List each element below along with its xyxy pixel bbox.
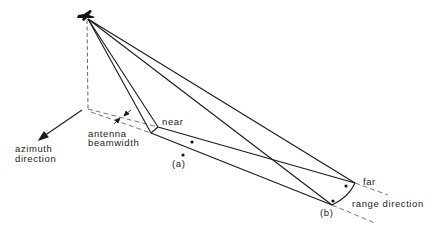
- point-a-label: (a): [172, 158, 185, 169]
- point-b-label: (b): [320, 207, 333, 218]
- aircraft-icon: [77, 10, 95, 21]
- range-direction-label: range direction: [352, 198, 424, 209]
- far-label: far: [363, 176, 376, 187]
- beamwidth-arrows: [114, 110, 131, 124]
- target-points: [181, 140, 347, 202]
- point-a: [181, 153, 184, 156]
- sar-geometry-diagram: azimuth direction antenna beamwidth near…: [0, 0, 432, 236]
- point-a-upper: [190, 140, 193, 143]
- point-b-upper: [344, 184, 347, 187]
- azimuth-label-line2: direction: [15, 153, 56, 164]
- near-label: near: [162, 116, 183, 127]
- nadir-line: [87, 20, 88, 109]
- azimuth-arrow: [39, 110, 82, 140]
- point-b: [331, 199, 334, 202]
- ground-dashed-lines: [88, 109, 388, 223]
- antenna-beamwidth-label-line2: beamwidth: [88, 137, 139, 148]
